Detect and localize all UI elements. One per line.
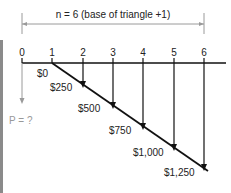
cash-flow-6: $1,250 [164, 167, 195, 178]
cash-flow-labels: $0 $250 $500 $750 $1,000 $1,250 [37, 68, 195, 178]
period-3: 3 [110, 47, 116, 58]
span-dimension: n = 6 (base of triangle +1) [22, 9, 204, 34]
cash-flow-2: $250 [50, 82, 73, 93]
period-6: 6 [201, 47, 207, 58]
span-label: n = 6 (base of triangle +1) [56, 9, 171, 20]
period-5: 5 [171, 47, 177, 58]
gradient-line [52, 63, 208, 171]
period-0: 0 [19, 47, 25, 58]
present-value-label: P = ? [9, 115, 33, 126]
cash-flow-5: $1,000 [133, 147, 164, 158]
cash-flow-1: $0 [37, 68, 49, 79]
period-labels: 0 1 2 3 4 5 6 [19, 47, 207, 58]
period-2: 2 [80, 47, 86, 58]
cash-flow-4: $750 [109, 125, 132, 136]
period-1: 1 [49, 47, 55, 58]
cash-flow-3: $500 [78, 103, 101, 114]
cash-flow-diagram: n = 6 (base of triangle +1) 0 1 2 3 4 5 … [0, 0, 231, 193]
period-4: 4 [140, 47, 146, 58]
present-value-arrow: P = ? [9, 63, 33, 126]
